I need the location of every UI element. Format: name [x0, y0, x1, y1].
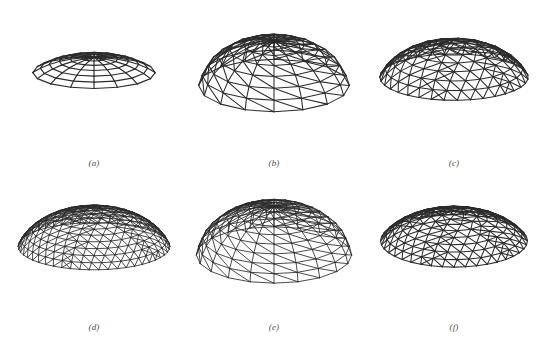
panel-caption-e: (e)	[186, 322, 362, 332]
mesh-panel-a	[6, 4, 182, 154]
mesh-drawing-d	[6, 172, 182, 320]
mesh-panel-f	[366, 172, 542, 320]
mesh-panel-c	[366, 2, 542, 154]
figure-plate: (a) (b) (c) (d) (e) (f)	[0, 0, 546, 343]
panel-caption-c: (c)	[366, 158, 542, 168]
mesh-drawing-f	[366, 172, 542, 320]
mesh-drawing-e	[186, 170, 362, 320]
mesh-panel-d	[6, 172, 182, 320]
mesh-panel-b	[186, 0, 362, 154]
panel-caption-b: (b)	[186, 158, 362, 168]
mesh-drawing-b	[186, 0, 362, 154]
panel-caption-f: (f)	[366, 322, 542, 332]
mesh-panel-e	[186, 170, 362, 320]
mesh-drawing-a	[6, 4, 182, 154]
mesh-drawing-c	[366, 2, 542, 154]
panel-caption-d: (d)	[6, 322, 182, 332]
panel-caption-a: (a)	[6, 158, 182, 168]
